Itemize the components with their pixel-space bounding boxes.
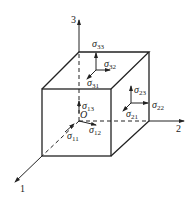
stress-cube-diagram: 3 2 1 O σ33 σ32 σ31 σ23 σ22 σ21 σ13 σ12 … bbox=[0, 0, 194, 199]
sigma-21-label: σ21 bbox=[126, 109, 138, 121]
sigma-32-label: σ32 bbox=[104, 59, 116, 71]
sigma-13-label: σ13 bbox=[82, 101, 94, 113]
sigma-22-label: σ22 bbox=[152, 100, 164, 112]
sigma-23-label: σ23 bbox=[134, 85, 146, 97]
sigma-11-label: σ11 bbox=[67, 131, 79, 143]
sigma-12-label: σ12 bbox=[89, 125, 101, 137]
diagram-lines bbox=[0, 0, 194, 199]
axis-1-line bbox=[15, 156, 42, 182]
sigma-33-label: σ33 bbox=[92, 39, 104, 51]
axis-3-label: 3 bbox=[71, 15, 76, 25]
axis-1-label: 1 bbox=[20, 184, 25, 194]
axis-2-label: 2 bbox=[176, 124, 181, 134]
sigma-31-label: σ31 bbox=[87, 78, 99, 90]
